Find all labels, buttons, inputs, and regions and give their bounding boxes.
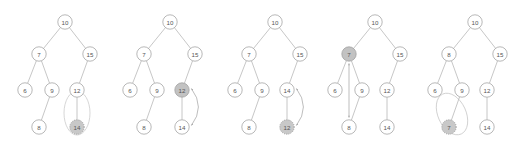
node-circle[interactable] bbox=[368, 15, 382, 29]
tree-node[interactable]: 12 bbox=[480, 83, 494, 97]
node-circle[interactable] bbox=[280, 120, 294, 134]
node-circle[interactable] bbox=[175, 120, 189, 134]
node-circle[interactable] bbox=[242, 120, 256, 134]
node-circle[interactable] bbox=[342, 120, 356, 134]
tree-node[interactable]: 15 bbox=[83, 47, 97, 61]
tree-node[interactable]: 12 bbox=[175, 83, 189, 97]
tree-node[interactable]: 6 bbox=[228, 83, 242, 97]
node-circle[interactable] bbox=[45, 83, 59, 97]
tree-edge bbox=[389, 61, 397, 83]
tree-node[interactable]: 15 bbox=[493, 47, 507, 61]
swap-arrow-head bbox=[348, 116, 350, 118]
tree-node[interactable]: 7 bbox=[442, 120, 456, 134]
node-circle[interactable] bbox=[328, 83, 342, 97]
tree-node[interactable]: 10 bbox=[58, 15, 72, 29]
node-circle[interactable] bbox=[32, 47, 46, 61]
tree-edge bbox=[379, 28, 395, 49]
tree-edge bbox=[251, 97, 259, 120]
tree-node[interactable]: 8 bbox=[442, 47, 456, 61]
tree-node[interactable]: 9 bbox=[255, 83, 269, 97]
tree-node[interactable]: 9 bbox=[355, 83, 369, 97]
tree-node[interactable]: 14 bbox=[70, 120, 84, 134]
tree-node[interactable]: 7 bbox=[342, 47, 356, 61]
node-circle[interactable] bbox=[137, 47, 151, 61]
node-circle[interactable] bbox=[137, 120, 151, 134]
tree-node[interactable]: 7 bbox=[242, 47, 256, 61]
node-circle[interactable] bbox=[380, 83, 394, 97]
node-circle[interactable] bbox=[293, 47, 307, 61]
node-circle[interactable] bbox=[58, 15, 72, 29]
tree-node[interactable]: 6 bbox=[428, 83, 442, 97]
tree-node[interactable]: 14 bbox=[280, 83, 294, 97]
node-circle[interactable] bbox=[70, 120, 84, 134]
node-circle[interactable] bbox=[175, 83, 189, 97]
tree-node[interactable]: 7 bbox=[32, 47, 46, 61]
tree-node[interactable]: 10 bbox=[268, 15, 282, 29]
tree-edge bbox=[254, 28, 271, 49]
tree-panel: 107156914812 bbox=[228, 15, 307, 134]
node-circle[interactable] bbox=[493, 47, 507, 61]
node-circle[interactable] bbox=[70, 83, 84, 97]
node-circle[interactable] bbox=[428, 83, 442, 97]
tree-node[interactable]: 9 bbox=[150, 83, 164, 97]
tree-node[interactable]: 9 bbox=[45, 83, 59, 97]
node-circle[interactable] bbox=[280, 83, 294, 97]
tree-edge bbox=[133, 61, 142, 84]
node-circle[interactable] bbox=[123, 83, 137, 97]
node-circle[interactable] bbox=[242, 47, 256, 61]
tree-node[interactable]: 15 bbox=[188, 47, 202, 61]
tree-edge bbox=[289, 61, 297, 83]
tree-edge bbox=[184, 61, 192, 83]
node-circle[interactable] bbox=[468, 15, 482, 29]
node-circle[interactable] bbox=[442, 120, 456, 134]
node-circle[interactable] bbox=[163, 15, 177, 29]
node-circle[interactable] bbox=[255, 83, 269, 97]
node-circle[interactable] bbox=[380, 120, 394, 134]
tree-panel: 108156912714 bbox=[428, 15, 507, 140]
node-circle[interactable] bbox=[188, 47, 202, 61]
tree-node[interactable]: 10 bbox=[368, 15, 382, 29]
node-circle[interactable] bbox=[32, 120, 46, 134]
tree-node[interactable]: 9 bbox=[455, 83, 469, 97]
tree-edge bbox=[174, 28, 190, 49]
node-circle[interactable] bbox=[480, 83, 494, 97]
tree-node[interactable]: 7 bbox=[137, 47, 151, 61]
tree-node[interactable]: 12 bbox=[380, 83, 394, 97]
node-circle[interactable] bbox=[442, 47, 456, 61]
tree-node[interactable]: 8 bbox=[32, 120, 46, 134]
tree-node[interactable]: 14 bbox=[380, 120, 394, 134]
tree-node[interactable]: 6 bbox=[328, 83, 342, 97]
tree-node[interactable]: 15 bbox=[293, 47, 307, 61]
tree-node[interactable]: 6 bbox=[123, 83, 137, 97]
tree-node[interactable]: 8 bbox=[342, 120, 356, 134]
tree-node[interactable]: 12 bbox=[280, 120, 294, 134]
tree-node[interactable]: 6 bbox=[18, 83, 32, 97]
node-circle[interactable] bbox=[150, 83, 164, 97]
tree-node[interactable]: 10 bbox=[468, 15, 482, 29]
tree-node[interactable]: 12 bbox=[70, 83, 84, 97]
tree-edge bbox=[41, 61, 49, 83]
tree-edge bbox=[238, 61, 247, 84]
swap-arrow bbox=[296, 89, 303, 126]
tree-node[interactable]: 8 bbox=[242, 120, 256, 134]
tree-edge bbox=[351, 97, 359, 120]
node-circle[interactable] bbox=[342, 47, 356, 61]
node-circle[interactable] bbox=[355, 83, 369, 97]
tree-panel: 107156912814 bbox=[18, 15, 97, 135]
node-circle[interactable] bbox=[268, 15, 282, 29]
node-circle[interactable] bbox=[18, 83, 32, 97]
tree-node[interactable]: 10 bbox=[163, 15, 177, 29]
tree-node[interactable]: 14 bbox=[175, 120, 189, 134]
node-circle[interactable] bbox=[480, 120, 494, 134]
tree-node[interactable]: 8 bbox=[137, 120, 151, 134]
tree-node[interactable]: 14 bbox=[480, 120, 494, 134]
node-circle[interactable] bbox=[455, 83, 469, 97]
tree-edge bbox=[279, 28, 295, 49]
tree-edge bbox=[146, 61, 154, 83]
tree-node[interactable]: 15 bbox=[393, 47, 407, 61]
tree-panel: 107156912814 bbox=[328, 15, 407, 134]
node-circle[interactable] bbox=[228, 83, 242, 97]
node-circle[interactable] bbox=[83, 47, 97, 61]
node-circle[interactable] bbox=[393, 47, 407, 61]
swap-arrow-head bbox=[348, 63, 350, 65]
